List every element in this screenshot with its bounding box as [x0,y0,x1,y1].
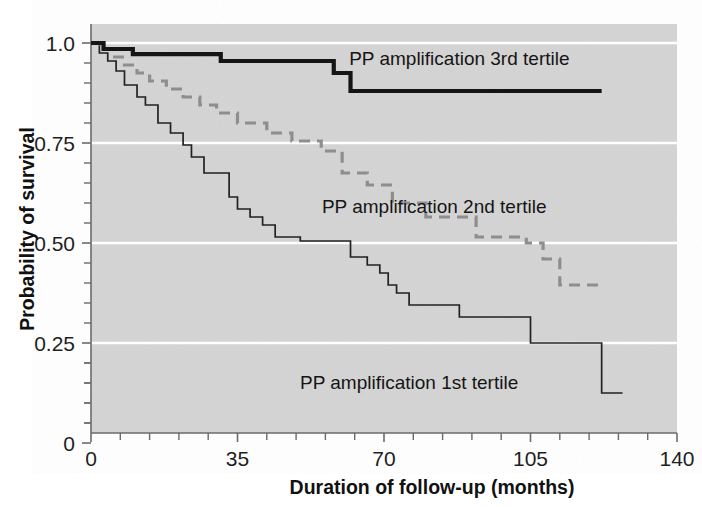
y-tick-labels: 1.00.750.500.250 [34,32,75,455]
x-tick-label: 140 [659,447,694,470]
series-label-2nd-tertile: PP amplification 2nd tertile [322,196,547,217]
x-tick-label: 35 [226,447,249,470]
y-axis-title: Probability of survival [16,127,38,331]
y-tick-label: 0.50 [34,232,75,255]
x-axis-title: Duration of follow-up (months) [290,476,575,498]
y-axis-ticks [82,43,91,443]
series-label-1st-tertile: PP amplification 1st tertile [300,372,518,393]
x-tick-label: 0 [85,447,97,470]
y-tick-label: 0 [63,432,75,455]
x-tick-label: 105 [513,447,548,470]
y-tick-label: 0.75 [34,132,75,155]
x-axis-ticks [91,433,677,442]
y-tick-label: 0.25 [34,332,75,355]
x-tick-labels: 03570105140 [85,447,694,470]
series-label-3rd-tertile: PP amplification 3rd tertile [349,48,569,69]
x-tick-label: 70 [372,447,395,470]
survival-chart: 1.00.750.500.250 03570105140 PP amplific… [0,0,702,507]
figure-container: 1.00.750.500.250 03570105140 PP amplific… [0,0,702,507]
y-tick-label: 1.0 [46,32,75,55]
